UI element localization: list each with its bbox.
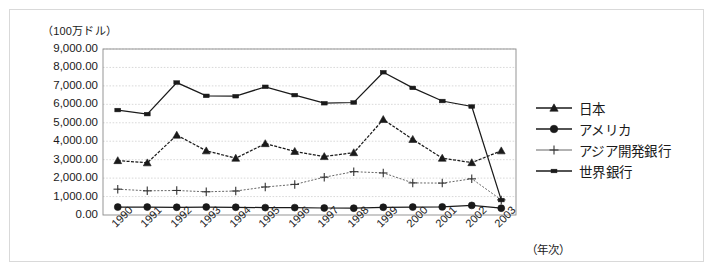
legend-item-3[interactable]: 世界銀行 [534,160,704,181]
data-point-plus [550,145,559,154]
data-point-triangle [114,157,122,164]
data-point-square [233,94,239,98]
data-point-plus [379,169,388,178]
data-point-triangle [232,154,240,161]
data-point-square [410,86,416,90]
gridlines [103,49,516,197]
data-point-plus [173,186,182,195]
data-point-plus [202,188,211,197]
data-point-plus [261,183,270,192]
data-point-plus [438,179,447,188]
data-point-square [115,108,121,112]
data-point-plus [232,187,241,196]
data-point-triangle [202,147,210,154]
data-point-plus [320,173,329,182]
legend-item-2[interactable]: アジア開発銀行 [534,139,704,160]
data-point-plus [350,167,359,176]
series-plus [114,167,506,204]
legend-item-0[interactable]: 日本 [534,97,704,118]
legend-marker-circle-icon [534,122,574,136]
data-point-square [203,94,209,98]
x-axis-title: （年次） [526,241,570,257]
data-point-square [551,169,557,173]
data-point-square [262,85,268,89]
data-point-triangle [261,140,269,147]
data-point-square [351,101,357,105]
data-point-plus [409,179,418,188]
data-point-plus [143,187,152,196]
data-point-square [292,93,298,97]
legend-label: アメリカ [579,119,631,139]
legend-label: アジア開発銀行 [579,140,671,160]
series-line [118,172,502,200]
data-point-triangle [497,147,505,154]
data-point-square [380,70,386,74]
data-point-square [469,105,475,109]
data-point-square [439,99,445,103]
data-point-square [498,198,504,202]
chart-legend: 日本アメリカアジア開発銀行世界銀行 [534,97,704,181]
data-point-triangle [409,135,417,142]
plot-frame [103,49,516,215]
data-point-circle [468,202,475,209]
data-point-square [174,81,180,85]
data-point-triangle [438,154,446,161]
legend-marker-square-icon [534,164,574,178]
data-point-square [321,101,327,105]
line-chart-figure: （100万ドル） 9,000.008,000.007,000.006,000.0… [0,0,714,272]
data-point-square [144,112,150,116]
legend-label: 世界銀行 [579,161,632,181]
legend-marker-triangle-icon [534,101,574,115]
legend-marker-plus-icon [534,143,574,157]
data-point-circle [550,125,558,133]
data-point-plus [291,180,300,189]
legend-item-1[interactable]: アメリカ [534,118,704,139]
data-point-triangle [379,116,387,123]
legend-label: 日本 [579,98,606,118]
data-point-plus [114,185,123,194]
data-point-plus [468,175,477,184]
data-point-triangle [173,131,181,138]
